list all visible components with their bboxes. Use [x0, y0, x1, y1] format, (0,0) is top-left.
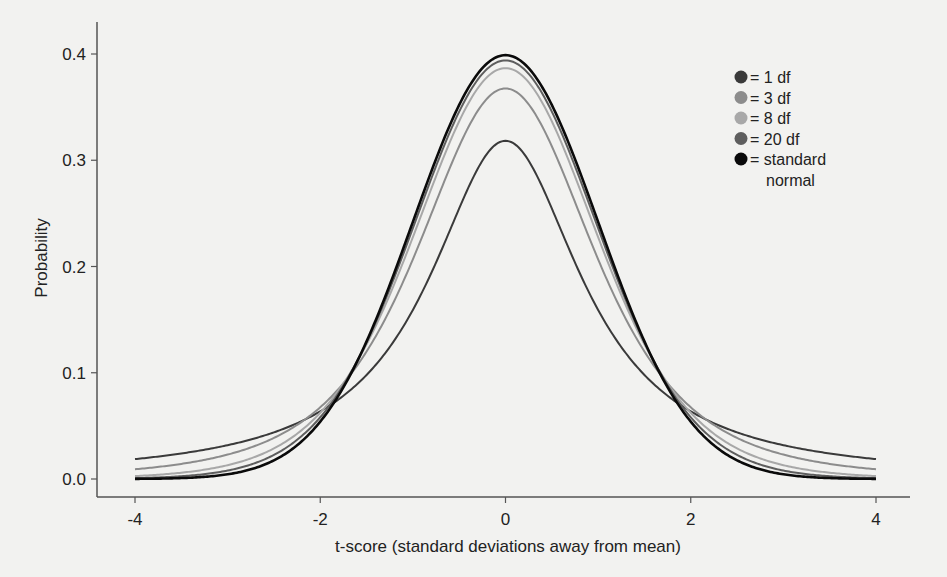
legend-label: = 8 df — [750, 110, 791, 127]
curve-1-df — [135, 141, 876, 459]
legend-swatch — [735, 91, 748, 104]
x-tick-label: -2 — [313, 510, 328, 529]
legend: = 1 df= 3 df= 8 df= 20 df= standardnorma… — [735, 69, 827, 189]
legend-label-line2: normal — [766, 172, 815, 189]
legend-swatch — [735, 132, 748, 145]
curve-8-df — [135, 68, 876, 476]
x-tick-label: 4 — [871, 510, 880, 529]
y-axis-ticks: 0.00.10.20.30.4 — [62, 45, 97, 489]
y-axis-title: Probability — [32, 218, 51, 298]
legend-swatch — [735, 153, 748, 166]
y-tick-label: 0.3 — [62, 151, 86, 170]
x-tick-label: 0 — [501, 510, 510, 529]
legend-label: = 20 df — [750, 131, 800, 148]
x-tick-label: -4 — [127, 510, 142, 529]
t-distribution-chart: 0.00.10.20.30.4 -4-2024 Probability t-sc… — [0, 0, 947, 577]
legend-label: = standard — [750, 151, 826, 168]
legend-swatch — [735, 71, 748, 84]
x-axis-title: t-score (standard deviations away from m… — [335, 537, 681, 556]
legend-label: = 1 df — [750, 69, 791, 86]
y-tick-label: 0.4 — [62, 45, 86, 64]
y-tick-label: 0.2 — [62, 258, 86, 277]
legend-label: = 3 df — [750, 90, 791, 107]
x-tick-label: 2 — [686, 510, 695, 529]
y-tick-label: 0.1 — [62, 364, 86, 383]
x-axis-ticks: -4-2024 — [127, 497, 880, 529]
y-tick-label: 0.0 — [62, 470, 86, 489]
legend-swatch — [735, 112, 748, 125]
